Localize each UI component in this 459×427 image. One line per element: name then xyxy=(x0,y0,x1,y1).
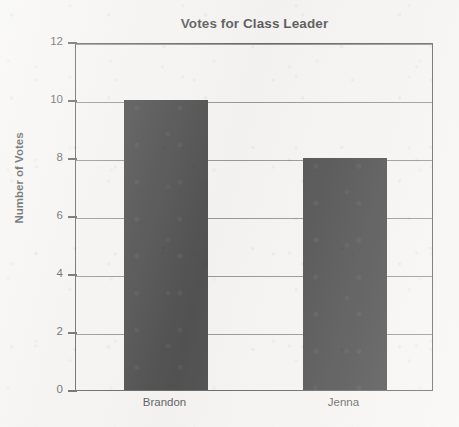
y-tick-mark-2 xyxy=(68,332,77,334)
y-tick-label-0: 0 xyxy=(23,383,63,395)
y-tick-label-12: 12 xyxy=(23,35,63,47)
chart-title: Votes for Class Leader xyxy=(75,16,434,31)
bar-chart-figure: Votes for Class Leader Number of Votes 0… xyxy=(0,0,459,427)
y-tick-mark-8 xyxy=(68,158,77,160)
gridline-12 xyxy=(76,44,432,45)
y-tick-label-2: 2 xyxy=(23,325,63,337)
y-tick-label-8: 8 xyxy=(23,151,63,163)
plot-inner xyxy=(76,44,432,390)
y-tick-label-10: 10 xyxy=(23,93,63,105)
x-axis-label-jenna: Jenna xyxy=(284,396,404,408)
y-tick-mark-12 xyxy=(68,42,77,44)
y-tick-label-4: 4 xyxy=(23,267,63,279)
bar-brandon xyxy=(124,100,208,390)
y-tick-mark-10 xyxy=(68,100,77,102)
y-tick-mark-4 xyxy=(68,274,77,276)
y-tick-mark-0 xyxy=(68,390,77,392)
y-tick-label-6: 6 xyxy=(23,209,63,221)
x-axis-label-brandon: Brandon xyxy=(105,396,225,408)
plot-area xyxy=(75,43,433,391)
y-tick-mark-6 xyxy=(68,216,77,218)
bar-jenna xyxy=(303,158,387,390)
